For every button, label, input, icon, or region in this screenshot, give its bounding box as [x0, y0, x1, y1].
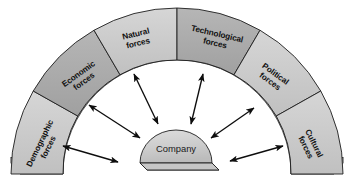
arrow-natural: [134, 74, 158, 124]
arrow-demographic: [63, 146, 118, 162]
arrow-technological: [191, 74, 203, 124]
company-label: Company: [156, 143, 196, 154]
arrow-cultural: [230, 146, 283, 161]
company-dome-base: [140, 163, 219, 170]
company-dome[interactable]: Company: [140, 130, 219, 170]
arrow-economic: [89, 105, 140, 138]
diagram-canvas: Demographic forces Economic forces Natur…: [0, 0, 354, 187]
macro-environment-diagram: Demographic forces Economic forces Natur…: [0, 0, 354, 187]
arrow-political: [211, 108, 254, 138]
